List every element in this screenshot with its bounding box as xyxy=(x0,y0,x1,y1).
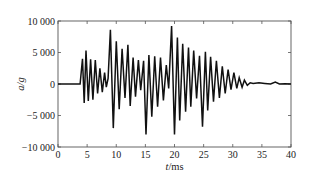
y-tick-label: −10 000 xyxy=(22,142,55,153)
x-tick-label: 0 xyxy=(56,149,61,160)
x-tick-label: 15 xyxy=(140,149,150,160)
line-chart: 0510152025303540 10 0005 0000−5 000−10 0… xyxy=(0,0,309,183)
plot-area: 0510152025303540 10 0005 0000−5 000−10 0… xyxy=(22,16,296,161)
x-tick-label: 5 xyxy=(85,149,90,160)
x-tick-label: 25 xyxy=(199,149,209,160)
x-tick-label: 20 xyxy=(170,149,180,160)
x-axis-label-unit: /ms xyxy=(168,161,183,172)
x-tick-label: 30 xyxy=(228,149,238,160)
x-tick-label: 40 xyxy=(286,149,296,160)
x-axis-label: t/ms xyxy=(165,161,183,172)
y-tick-label: 0 xyxy=(50,79,55,90)
acceleration-series-line xyxy=(58,26,291,134)
x-tick-label: 10 xyxy=(111,149,121,160)
y-tick-label: −5 000 xyxy=(27,110,55,121)
y-tick-label: 10 000 xyxy=(28,16,56,27)
y-tick-label: 5 000 xyxy=(33,47,56,58)
y-axis-label: a/g xyxy=(15,77,26,90)
x-tick-label: 35 xyxy=(257,149,267,160)
